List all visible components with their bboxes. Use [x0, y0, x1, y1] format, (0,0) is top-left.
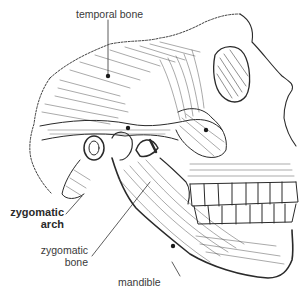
label-zygomatic-arch-line1: zygomatic — [6, 206, 64, 218]
leader-zygomatic-bone — [92, 182, 150, 256]
label-zygomatic-bone-line1: zygomatic — [30, 244, 88, 256]
upper-teeth — [190, 182, 298, 206]
dot-mandible — [171, 244, 175, 248]
cranium-outline — [50, 14, 240, 78]
dot-temporal-bone — [106, 74, 110, 78]
label-zygomatic-arch: zygomatic arch — [6, 206, 64, 230]
label-mandible: mandible — [118, 276, 161, 288]
mandibular-condyle — [112, 132, 132, 160]
label-zygomatic-arch-line2: arch — [6, 218, 64, 230]
dot-zygomatic-bone — [204, 128, 208, 132]
ear-canal — [84, 136, 104, 160]
label-zygomatic-bone: zygomatic bone — [30, 244, 88, 268]
leader-mandible — [172, 262, 180, 276]
lower-teeth — [194, 204, 296, 224]
label-temporal-bone: temporal bone — [76, 8, 143, 20]
zygomatic-bone-outline — [176, 109, 226, 158]
dot-zygomatic-arch-joint — [126, 126, 130, 130]
label-zygomatic-bone-line2: bone — [30, 256, 88, 268]
skull-diagram: temporal bone zygomatic arch zygomatic b… — [0, 0, 303, 293]
orbit-outline — [214, 47, 250, 102]
